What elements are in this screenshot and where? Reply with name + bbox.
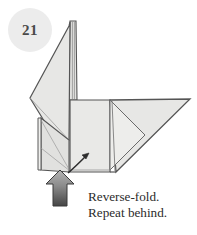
push-arrow [46,170,74,206]
caption-line-1: Reverse-fold. [88,189,193,205]
leg-flap-edge [38,118,41,170]
origami-diagram-page: 21 Reverse-fold. Repeat behind. [0,0,197,235]
step-number: 21 [8,8,52,52]
body-panel [70,100,110,172]
caption-block: Reverse-fold. Repeat behind. [88,189,193,220]
caption-line-2: Repeat behind. [88,205,193,221]
